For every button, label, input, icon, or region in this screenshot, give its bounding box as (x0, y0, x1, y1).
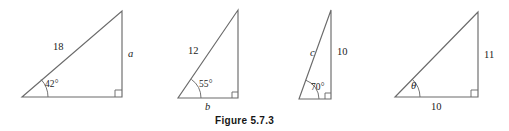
triangle-1-angle-label: 42° (45, 80, 59, 90)
triangle-1-outline (22, 11, 122, 97)
triangle-3-hypotenuse-label: c (310, 48, 315, 59)
triangle-3-right-angle-marker (325, 93, 331, 99)
figure-container: 18 42° a 12 55° b c 70° 10 θ 11 10 Figur… (0, 0, 509, 131)
triangle-4-right-angle-marker (471, 90, 478, 97)
triangle-1-hypotenuse-label: 18 (53, 42, 64, 53)
triangle-2-right-angle-marker (232, 92, 238, 98)
triangle-1-vertical-label: a (128, 49, 133, 60)
triangle-2-angle-label: 55° (199, 80, 213, 90)
triangle-1-right-angle-marker (115, 90, 122, 97)
triangle-4-base-label: 10 (431, 102, 442, 113)
triangle-2-base-label: b (205, 102, 210, 113)
triangle-4-outline (395, 12, 478, 97)
triangle-1-shape (22, 11, 122, 97)
triangle-4-vertical-label: 11 (484, 50, 494, 61)
triangle-3-vertical-label: 10 (337, 47, 348, 58)
triangle-2-hypotenuse-label: 12 (188, 46, 199, 57)
triangle-4-shape (395, 12, 478, 97)
triangle-4-angle-label: θ (411, 81, 416, 92)
figure-caption: Figure 5.7.3 (215, 116, 274, 126)
triangle-3-angle-label: 70° (311, 83, 325, 93)
